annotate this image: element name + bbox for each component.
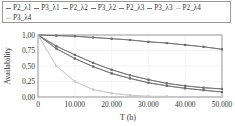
data-point-marker	[203, 87, 205, 89]
grid-lines	[38, 35, 222, 97]
series-line	[38, 35, 222, 89]
data-point-marker	[37, 34, 39, 36]
x-tick-label: 10.000	[64, 100, 85, 109]
data-point-marker	[184, 44, 186, 46]
data-point-marker	[147, 82, 149, 84]
data-point-marker	[74, 35, 76, 37]
data-point-marker	[184, 96, 186, 98]
y-tick-label: 0,00	[22, 93, 35, 102]
series-line	[38, 35, 222, 49]
data-point-marker	[221, 91, 223, 93]
data-point-marker	[147, 95, 149, 97]
y-axis-label: Availability	[3, 47, 12, 85]
data-point-marker	[221, 88, 223, 90]
data-point-marker	[55, 65, 57, 67]
series-line	[38, 35, 222, 92]
data-point-marker	[166, 85, 168, 87]
x-tick-label: 30.000	[138, 100, 159, 109]
data-point-marker	[203, 96, 205, 98]
data-point-marker	[221, 48, 223, 50]
data-point-marker	[74, 81, 76, 83]
data-point-marker	[74, 54, 76, 56]
x-tick-label: 0	[36, 100, 40, 109]
y-tick-label: 0,50	[22, 62, 35, 71]
line-chart: 1,000,750,500,250,00 010.00020.00030.000…	[0, 0, 235, 126]
data-point-marker	[74, 58, 76, 60]
data-point-marker	[111, 72, 113, 74]
data-point-marker	[129, 77, 131, 79]
y-axis-ticks: 1,000,750,500,250,00	[22, 31, 35, 102]
data-point-marker	[92, 36, 94, 38]
x-tick-label: 40.000	[175, 100, 196, 109]
data-point-marker	[166, 95, 168, 97]
data-point-marker	[166, 82, 168, 84]
data-point-marker	[92, 89, 94, 91]
series-line	[38, 35, 222, 49]
data-point-marker	[92, 62, 94, 64]
x-tick-label: 20.000	[101, 100, 122, 109]
data-point-marker	[203, 46, 205, 48]
data-point-marker	[111, 92, 113, 94]
data-point-marker	[129, 74, 131, 76]
data-point-marker	[184, 85, 186, 87]
series-line	[38, 35, 222, 92]
data-point-marker	[55, 35, 57, 37]
x-tick-label: 50.000	[212, 100, 233, 109]
x-axis-label: T (h)	[120, 113, 136, 122]
data-point-marker	[55, 48, 57, 50]
data-point-marker	[184, 87, 186, 89]
y-tick-label: 0,75	[22, 46, 35, 55]
data-point-marker	[147, 79, 149, 81]
data-point-marker	[111, 69, 113, 71]
data-point-marker	[129, 39, 131, 41]
data-point-marker	[129, 94, 131, 96]
data-point-marker	[166, 42, 168, 44]
data-point-marker	[147, 41, 149, 43]
x-axis-ticks: 010.00020.00030.00040.00050.000	[36, 100, 232, 109]
data-point-marker	[92, 66, 94, 68]
y-tick-label: 1,00	[22, 31, 35, 40]
data-point-marker	[111, 38, 113, 40]
y-tick-label: 0,25	[22, 77, 35, 86]
data-point-marker	[203, 89, 205, 91]
data-point-marker	[221, 96, 223, 98]
data-point-marker	[55, 45, 57, 47]
series-line	[38, 35, 222, 89]
